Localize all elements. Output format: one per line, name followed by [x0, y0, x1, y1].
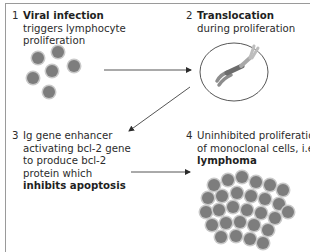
lymphoma-cluster-illustration [199, 170, 296, 251]
lymphocytes-illustration [26, 45, 82, 100]
translocation-cell-illustration [200, 43, 268, 101]
diagram-graphics [0, 0, 310, 252]
arrow-2-to-3 [129, 87, 190, 131]
